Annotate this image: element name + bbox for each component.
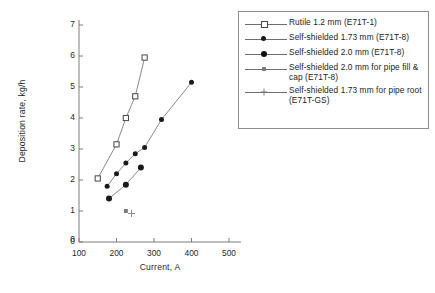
legend-marker-small-square-icon <box>243 64 289 75</box>
legend-item-label: Self-shielded 2.0 mm for pipe fill & cap… <box>289 62 424 83</box>
y-tick-label: 4 <box>65 112 75 122</box>
x-tick-label: 300 <box>140 248 168 258</box>
series-3 <box>124 209 128 213</box>
origin-label: 0 <box>65 234 75 244</box>
x-tick-label: 500 <box>215 248 243 258</box>
legend-item[interactable]: Self-shielded 1.73 mm (E71T-8) <box>243 32 424 45</box>
legend-item[interactable]: Rutile 1.2 mm (E71T-1) <box>243 17 424 30</box>
series-1 <box>105 80 194 189</box>
legend: Rutile 1.2 mm (E71T-1)Self-shielded 1.73… <box>238 11 429 129</box>
legend-item-label: Self-shielded 1.73 mm (E71T-8) <box>289 32 409 42</box>
chart-figure: Deposition rate, kg/h Current, A 0123456… <box>0 0 435 293</box>
y-tick-label: 6 <box>65 50 75 60</box>
series-2 <box>106 165 144 202</box>
y-tick-label: 5 <box>65 81 75 91</box>
y-tick-label: 7 <box>65 19 75 29</box>
legend-item-label: Self-shielded 2.0 mm (E71T-8) <box>289 47 404 57</box>
x-axis-title: Current, A <box>100 262 220 272</box>
legend-marker-cross-icon <box>243 87 289 98</box>
y-tick-label: 1 <box>65 205 75 215</box>
legend-marker-filled-circle-icon <box>243 34 289 45</box>
y-tick-label: 2 <box>65 174 75 184</box>
legend-marker-filled-circle-large-icon <box>243 49 289 60</box>
legend-marker-open-square-icon <box>243 19 289 30</box>
series-4 <box>128 210 135 217</box>
y-tick-label: 3 <box>65 143 75 153</box>
x-tick-label: 200 <box>103 248 131 258</box>
axis-ticks <box>79 25 229 242</box>
axis-lines <box>79 20 241 242</box>
x-tick-label: 400 <box>178 248 206 258</box>
legend-item[interactable]: Self-shielded 2.0 mm (E71T-8) <box>243 47 424 60</box>
series-0 <box>95 55 147 181</box>
legend-item-label: Rutile 1.2 mm (E71T-1) <box>289 17 377 27</box>
legend-item[interactable]: Self-shielded 1.73 mm for pipe root (E71… <box>243 85 424 106</box>
y-axis-title: Deposition rate, kg/h <box>17 51 27 191</box>
legend-item[interactable]: Self-shielded 2.0 mm for pipe fill & cap… <box>243 62 424 83</box>
x-tick-label: 100 <box>65 248 93 258</box>
legend-item-label: Self-shielded 1.73 mm for pipe root (E71… <box>289 85 424 106</box>
